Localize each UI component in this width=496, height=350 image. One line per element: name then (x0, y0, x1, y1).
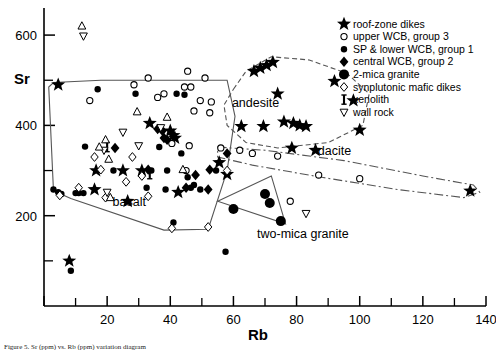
data-point (156, 144, 162, 150)
data-point (155, 94, 161, 100)
legend-item[interactable]: synplutonic mafic dikes (340, 81, 461, 93)
data-point (202, 75, 208, 81)
data-point (185, 68, 191, 74)
legend-marker-circle-filled (341, 46, 347, 52)
data-point (87, 97, 93, 103)
data-point (173, 91, 179, 97)
data-point (249, 150, 255, 156)
data-point (68, 268, 74, 274)
figure-caption: Figure 5. Sr (ppm) vs. Rb (ppm) variatio… (4, 343, 146, 350)
data-point (316, 172, 322, 178)
data-point (213, 167, 219, 173)
data-point (237, 147, 243, 153)
data-point (260, 189, 270, 199)
legend-marker-circle-large-filled (339, 69, 349, 79)
x-tick-label: 100 (349, 312, 371, 327)
x-tick-label: 40 (163, 312, 177, 327)
data-point (164, 167, 170, 173)
data-point (178, 150, 184, 156)
data-point (197, 97, 203, 103)
y-tick-label: 400 (15, 118, 37, 133)
data-point (145, 75, 151, 81)
data-point (191, 108, 197, 114)
data-point (94, 86, 100, 92)
legend-item-label: SP & lower WCB, group 1 (353, 43, 474, 55)
legend-item-label: 2-mica granite (353, 68, 420, 80)
legend-item-label: upper WCB, group 3 (353, 30, 449, 42)
legend-marker-circle-open (341, 34, 347, 40)
data-point (276, 216, 286, 226)
y-tick-label: 600 (15, 28, 37, 43)
data-point (197, 186, 203, 192)
legend-item-label: xenolith (353, 93, 389, 105)
data-point (222, 249, 228, 255)
legend-item-label: roof-zone dikes (353, 18, 425, 30)
data-point (265, 198, 275, 208)
x-tick-label: 20 (100, 312, 114, 327)
x-tick-label: 120 (412, 312, 434, 327)
data-point (191, 182, 197, 188)
field-label-two-mica granite: two-mica granite (257, 227, 349, 241)
data-point (181, 91, 187, 97)
legend-item[interactable]: central WCB, group 2 (340, 55, 454, 67)
data-point (162, 186, 168, 192)
data-point (131, 82, 137, 88)
data-point (186, 143, 192, 149)
data-point (132, 91, 138, 97)
legend-item-label: central WCB, group 2 (353, 55, 454, 67)
data-point (181, 84, 187, 90)
data-point (80, 190, 86, 196)
field-label-andesite: andesite (232, 96, 279, 110)
legend-item-label: wall rock (352, 106, 395, 118)
field-label-dacite: dacite (318, 144, 351, 158)
data-point (188, 84, 194, 90)
x-tick-label: 140 (475, 312, 496, 327)
data-point (287, 198, 293, 204)
legend-item[interactable]: upper WCB, group 3 (341, 30, 449, 42)
data-point (82, 143, 88, 149)
data-point (228, 204, 238, 214)
sr-rb-variation-diagram: 200400600 20406080100120140 Sr Rb basalt… (0, 0, 496, 350)
data-point (275, 153, 281, 159)
data-point (143, 185, 149, 191)
legend-item[interactable]: SP & lower WCB, group 1 (341, 43, 474, 55)
y-axis-title: Sr (14, 70, 30, 87)
data-point (208, 99, 214, 105)
x-axis-title: Rb (248, 326, 268, 343)
data-point (110, 167, 116, 173)
data-point (161, 91, 167, 97)
x-tick-label: 60 (226, 312, 240, 327)
x-tick-label: 80 (289, 312, 303, 327)
data-point (357, 176, 363, 182)
legend-item-label: synplutonic mafic dikes (353, 81, 461, 93)
y-tick-label: 200 (15, 209, 37, 224)
data-point (207, 110, 213, 116)
data-point (218, 145, 224, 151)
data-point (184, 174, 190, 180)
figure-container: 200400600 20406080100120140 Sr Rb basalt… (0, 0, 496, 350)
